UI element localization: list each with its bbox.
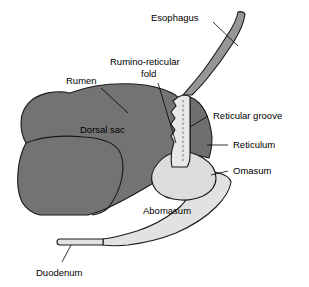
reticulum-shape (190, 97, 212, 158)
label-duodenum: Duodenum (36, 267, 83, 278)
label-rumen: Rumen (66, 75, 97, 86)
label-reticulum: Reticulum (233, 139, 275, 150)
label-omasum: Omasum (233, 165, 272, 176)
label-rumino-reticular-fold-line2: fold (141, 68, 156, 79)
esophagus-shape (183, 12, 245, 95)
label-abomasum: Abomasum (143, 205, 191, 216)
label-rumino-reticular-fold-line1: Rumino-reticular (110, 56, 180, 67)
anatomy-diagram: Esophagus Rumen Rumino-reticular fold Do… (0, 0, 309, 287)
label-esophagus: Esophagus (151, 12, 199, 23)
rumen-shape (18, 84, 180, 215)
label-reticular-groove: Reticular groove (213, 110, 282, 121)
duodenum-leader (62, 245, 71, 262)
anatomy-illustration: Esophagus Rumen Rumino-reticular fold Do… (0, 0, 309, 287)
label-dorsal-sac: Dorsal sac (80, 124, 125, 135)
duodenum-shape (57, 239, 103, 245)
